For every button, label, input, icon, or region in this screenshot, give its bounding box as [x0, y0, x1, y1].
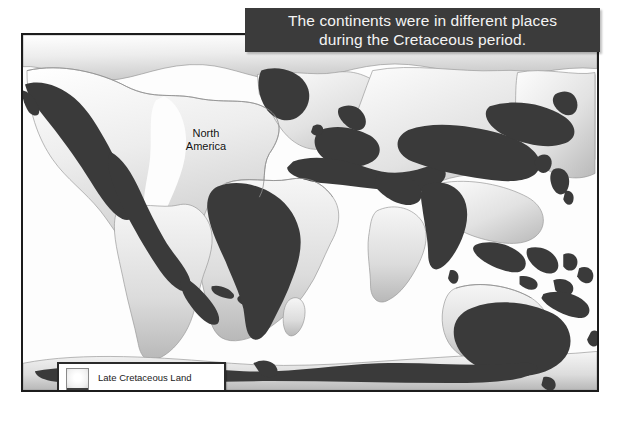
legend-item-land-today: Land Today	[98, 388, 191, 392]
legend-item-late-cretaceous-land: Late Cretaceous Land	[98, 368, 191, 388]
map-figure: North America Late Cretaceous Land Land …	[0, 0, 621, 424]
map-label-north-america: North America	[169, 127, 243, 153]
map-legend: Late Cretaceous Land Land Today	[57, 362, 226, 392]
map-graphic	[23, 35, 597, 390]
caption-banner: The continents were in different places …	[245, 8, 600, 52]
caption-text: The continents were in different places …	[280, 11, 565, 49]
legend-swatch	[66, 368, 89, 392]
legend-label-list: Late Cretaceous Land Land Today	[98, 368, 191, 392]
world-map: North America Late Cretaceous Land Land …	[21, 33, 599, 392]
legend-swatch-land-today	[67, 388, 88, 392]
legend-swatch-late-cretaceous-land	[67, 369, 88, 388]
